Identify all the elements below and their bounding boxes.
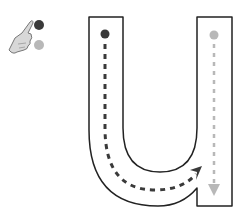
letter-tracing-canvas bbox=[0, 0, 248, 224]
legend-first-stroke-dot bbox=[34, 20, 44, 30]
legend-second-stroke-dot bbox=[34, 40, 44, 50]
stroke-2-start-dot bbox=[210, 31, 219, 40]
pointing-hand-icon bbox=[9, 21, 33, 53]
stroke-1-start-dot bbox=[101, 30, 110, 39]
letter-u-outline bbox=[89, 17, 232, 206]
